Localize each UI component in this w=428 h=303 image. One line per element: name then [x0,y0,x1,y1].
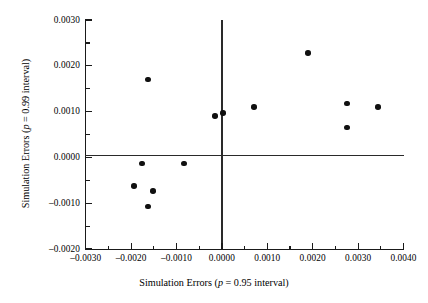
x-axis-title-pre: Simulation Errors ( [139,277,218,288]
x-tick-minor [335,246,336,251]
x-tick-major [403,243,404,250]
y-tick-minor [85,134,90,135]
y-tick-label: –0.0010 [49,198,80,208]
x-tick-minor [380,246,381,251]
x-axis-title-post: = 0.95 interval) [223,277,289,288]
x-tick-major [312,243,313,250]
y-tick-label: 0.0020 [54,60,80,70]
y-tick-major [85,19,92,20]
data-point [150,188,156,194]
y-axis-title-italic-p: p [20,124,31,129]
y-axis-title-pre: Simulation Errors ( [20,130,31,209]
x-tick-minor [153,246,154,251]
y-tick-label: 0.0000 [54,152,80,162]
y-tick-minor [85,226,90,227]
y-tick-minor [85,180,90,181]
data-point [220,110,226,116]
x-tick-label: 0.0040 [374,253,428,264]
data-point [131,183,137,189]
y-tick-minor [85,42,90,43]
scatter-plot-figure: –0.0020–0.00100.00000.00100.00200.0030 –… [0,0,428,303]
data-point [344,125,350,131]
y-tick-minor [85,88,90,89]
data-point [181,161,187,167]
y-tick-label: –0.0020 [49,244,80,254]
x-tick-major [85,243,86,250]
x-tick-major [131,243,132,250]
x-axis-title: Simulation Errors (p = 0.95 interval) [0,277,428,288]
y-tick-label: 0.0030 [54,15,80,25]
x-tick-minor [289,246,290,251]
zero-horizontal-reference-line [85,155,404,156]
x-tick-major [221,243,222,250]
x-tick-major [176,243,177,250]
y-tick-major [85,157,92,158]
data-point [375,104,381,110]
x-tick-major [358,243,359,250]
x-tick-major [267,243,268,250]
y-axis-title-post: = 0.99 interval) [20,59,31,125]
y-axis-title: Simulation Errors (p = 0.99 interval) [20,14,31,254]
x-tick-minor [244,246,245,251]
y-tick-major [85,203,92,204]
y-tick-label: 0.0010 [54,106,80,116]
data-point [139,161,145,167]
data-point [251,104,257,110]
data-point [145,204,151,210]
zero-vertical-reference-line [221,20,222,249]
data-point [145,77,151,83]
data-point [305,50,311,56]
x-tick-minor [108,246,109,251]
data-point [212,113,218,119]
x-tick-minor [199,246,200,251]
y-tick-major [85,65,92,66]
data-point [344,101,350,107]
y-tick-major [85,111,92,112]
